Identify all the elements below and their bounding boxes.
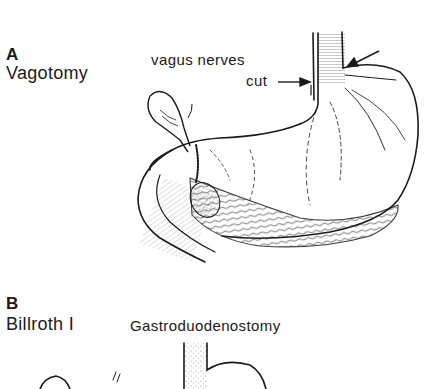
panel-b-stomach bbox=[40, 343, 266, 389]
panel-a-stomach bbox=[138, 32, 418, 262]
gallbladder bbox=[148, 91, 192, 152]
anatomy-illustration bbox=[0, 0, 432, 389]
arrow-icon bbox=[278, 78, 310, 86]
